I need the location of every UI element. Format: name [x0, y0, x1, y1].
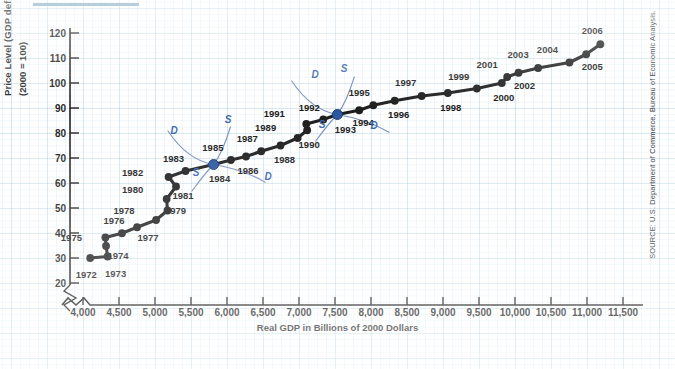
- point-label: 2003: [508, 49, 529, 60]
- data-point: [473, 85, 481, 93]
- y-tick-label: 20: [55, 278, 67, 289]
- point-label: 1981: [172, 190, 194, 201]
- data-point: [369, 101, 377, 109]
- x-tick-label: 5,000: [142, 307, 167, 318]
- point-label: 1989: [255, 122, 276, 133]
- point-label: 1973: [105, 268, 126, 279]
- x-tick-label: 4,500: [106, 307, 131, 318]
- y-tick-label: 120: [49, 28, 66, 39]
- y-tick-label: 90: [55, 103, 67, 114]
- point-label: 1991: [264, 108, 286, 119]
- data-point: [444, 89, 452, 97]
- x-tick-label: 6,000: [214, 307, 239, 318]
- point-label: 1990: [299, 139, 320, 150]
- x-tick-label: 10,500: [536, 307, 567, 318]
- x-tick-label: 5,500: [178, 307, 203, 318]
- x-tick-label: 9,500: [466, 307, 491, 318]
- data-point: [118, 229, 126, 237]
- x-axis-line: [62, 298, 643, 305]
- S-curve-1993: S: [341, 63, 348, 74]
- point-label: 1977: [138, 232, 159, 243]
- data-point: [242, 153, 250, 161]
- x-tick-label: 8,000: [358, 307, 383, 318]
- data-point: [534, 64, 542, 72]
- data-point: [515, 69, 523, 77]
- point-label: 1979: [165, 205, 186, 216]
- x-tick-label: 11,500: [608, 307, 638, 318]
- point-label: 1986: [237, 165, 258, 176]
- point-label: 1999: [448, 71, 469, 82]
- data-point: [227, 156, 235, 164]
- point-label: 1987: [237, 133, 258, 144]
- data-point: [582, 50, 590, 58]
- point-label: 1997: [395, 77, 416, 88]
- data-point: [498, 79, 506, 87]
- y-axis-title-line2: (2000 = 100): [17, 42, 28, 96]
- y-tick-label: 80: [55, 128, 67, 139]
- data-point: [391, 97, 399, 105]
- point-label: 2002: [514, 80, 535, 91]
- point-label: 2006: [582, 25, 603, 36]
- data-point: [503, 73, 511, 81]
- point-label: 1980: [122, 184, 143, 195]
- D-curve-1985: D: [170, 125, 177, 136]
- point-label: 1983: [163, 153, 184, 164]
- x-tick-label: 8,500: [394, 307, 419, 318]
- data-point: [133, 223, 141, 231]
- point-label: 1976: [103, 215, 124, 226]
- point-labels: 1972197319741975197619771978197919801981…: [61, 25, 604, 280]
- x-tick-label: 7,500: [322, 307, 347, 318]
- data-point: [257, 147, 265, 155]
- point-label: 1998: [440, 102, 461, 113]
- point-label: 1978: [114, 205, 135, 216]
- point-label: 2000: [493, 92, 514, 103]
- x-tick-label: 10,000: [500, 307, 531, 318]
- data-point: [165, 173, 173, 181]
- point-label: 1985: [202, 142, 224, 153]
- data-point: [302, 120, 310, 128]
- S-label-1993-lower: S: [319, 119, 326, 130]
- point-label: 1974: [107, 250, 129, 261]
- D-label-1985-lower: D: [264, 171, 271, 182]
- data-point: [332, 110, 342, 120]
- point-label: 1975: [61, 232, 83, 243]
- data-point: [163, 195, 171, 203]
- data-point: [182, 167, 190, 175]
- point-label: 1972: [76, 269, 97, 280]
- S-label-1985-lower: S: [193, 167, 200, 178]
- x-tick-label: 11,000: [572, 307, 602, 318]
- source-note-wrap: SOURCE: U.S. Department of Commerce, Bur…: [648, 10, 668, 360]
- point-label: 2001: [477, 59, 499, 70]
- y-tick-label: 50: [55, 203, 67, 214]
- data-point: [418, 92, 426, 100]
- source-note: SOURCE: U.S. Department of Commerce, Bur…: [648, 10, 657, 259]
- data-point: [566, 59, 574, 67]
- D-label-1993-lower: D: [370, 120, 377, 131]
- data-point: [596, 40, 604, 48]
- x-axis-title: Real GDP in Billions of 2000 Dollars: [0, 322, 675, 333]
- data-point: [101, 234, 109, 242]
- D-curve-1993: D: [311, 69, 318, 80]
- x-tick-label: 7,000: [286, 307, 311, 318]
- data-point: [277, 142, 285, 150]
- point-label: 2004: [537, 44, 559, 55]
- S-curve-1985: S: [225, 114, 232, 125]
- y-tick-label: 30: [55, 253, 67, 264]
- point-label: 2005: [582, 61, 604, 72]
- x-tick-label: 6,500: [250, 307, 275, 318]
- data-point: [209, 160, 219, 170]
- x-tick-label: 4,000: [70, 307, 95, 318]
- y-tick-label: 60: [55, 178, 67, 189]
- point-label: 1995: [349, 87, 371, 98]
- x-tick-label: 9,000: [430, 307, 455, 318]
- data-point: [102, 242, 110, 250]
- y-tick-label: 110: [50, 53, 67, 64]
- gdp-price-level-scatter-chart: 20304050607080901001101204,0004,5005,000…: [0, 0, 675, 369]
- point-label: 1984: [209, 173, 231, 184]
- y-tick-label: 70: [55, 153, 67, 164]
- data-point: [355, 106, 363, 114]
- y-tick-label: 100: [49, 78, 66, 89]
- data-point: [152, 216, 160, 224]
- point-label: 1982: [122, 167, 143, 178]
- data-point: [86, 254, 94, 262]
